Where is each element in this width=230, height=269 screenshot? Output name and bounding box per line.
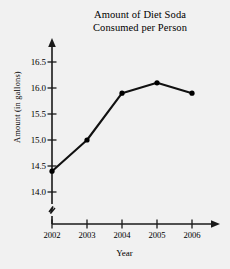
data-point-2002: [49, 169, 54, 174]
y-axis-break-icon: [49, 207, 55, 214]
y-axis-arrow-icon: [48, 38, 56, 47]
data-point-2003: [84, 137, 89, 142]
data-point-2004: [119, 91, 124, 96]
line-chart: Amount of Diet Soda Consumed per Person …: [0, 0, 230, 269]
data-line-series: [52, 83, 192, 171]
chart-canvas: [0, 0, 230, 269]
data-point-markers: [49, 80, 194, 174]
data-point-2005: [154, 80, 159, 85]
data-point-2006: [189, 91, 194, 96]
x-axis-arrow-icon: [211, 220, 220, 228]
